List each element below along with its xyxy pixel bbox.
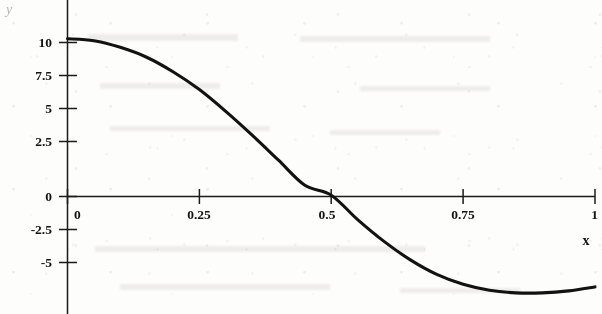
- chart-canvas: 10 7.5 5 2.5 0 -2.5 -5 0 0.25 0.5 0.75 1…: [0, 0, 602, 314]
- y-tick-label-7.5: 7.5: [35, 68, 52, 83]
- x-axis-label: x: [583, 233, 590, 248]
- x-axis-group: 0 0.25 0.5 0.75 1: [68, 189, 599, 222]
- x-tick-label-0: 0: [74, 207, 81, 222]
- x-tick-label-0.75: 0.75: [451, 207, 475, 222]
- y-axis-group: 10 7.5 5 2.5 0 -2.5 -5: [31, 0, 77, 314]
- x-tick-label-1: 1: [591, 207, 598, 222]
- y-tick-label-2.5: 2.5: [35, 134, 52, 149]
- chart-svg: 10 7.5 5 2.5 0 -2.5 -5 0 0.25 0.5 0.75 1…: [0, 0, 602, 314]
- y-tick-label-5: 5: [45, 101, 52, 116]
- y-axis-label: y: [4, 2, 13, 17]
- y-tick-label--5: -5: [41, 255, 52, 270]
- y-tick-label--2.5: -2.5: [31, 222, 53, 237]
- data-curve: [68, 39, 596, 293]
- x-tick-label-0.25: 0.25: [187, 207, 211, 222]
- x-tick-label-0.5: 0.5: [319, 207, 336, 222]
- y-tick-label-0: 0: [45, 189, 52, 204]
- y-tick-label-10: 10: [39, 35, 53, 50]
